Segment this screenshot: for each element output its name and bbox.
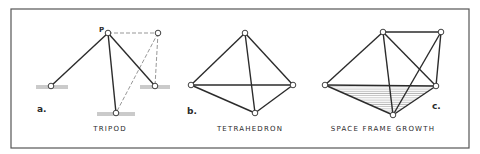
tripod-edges <box>36 33 170 115</box>
strut-member <box>108 33 116 113</box>
panel-a-letter: a. <box>37 104 47 114</box>
joint-node <box>113 110 119 116</box>
dashed-member <box>116 33 158 113</box>
joint-node <box>390 112 396 118</box>
joint-node <box>438 29 444 35</box>
strut-member <box>325 32 383 85</box>
panel-b-caption: TETRAHEDRON <box>216 125 283 133</box>
point-p-label: P <box>99 26 104 34</box>
strut-member <box>108 33 155 86</box>
joint-node <box>433 83 439 89</box>
structural-diagram: P a. TRIPOD b. TETRAHEDRON c. SPACE FRAM… <box>0 0 480 154</box>
figure-canvas: P a. TRIPOD b. TETRAHEDRON c. SPACE FRAM… <box>0 0 480 154</box>
panel-c-caption: SPACE FRAME GROWTH <box>331 125 435 133</box>
strut-member <box>191 33 245 85</box>
space-frame-edges <box>325 32 441 115</box>
panel-c-letter: c. <box>432 101 441 111</box>
joint-node <box>155 30 161 36</box>
panel-c-space-frame-growth: c. SPACE FRAME GROWTH <box>322 29 444 133</box>
joint-node <box>322 82 328 88</box>
strut-member <box>51 33 108 86</box>
joint-node <box>290 82 296 88</box>
joint-node <box>188 82 194 88</box>
strut-member <box>255 85 293 113</box>
panel-a-tripod: P a. TRIPOD <box>36 26 170 133</box>
strut-member <box>245 33 255 113</box>
joint-node <box>380 29 386 35</box>
panel-b-tetrahedron: b. TETRAHEDRON <box>187 30 296 133</box>
strut-member <box>191 85 255 113</box>
dashed-member <box>155 33 158 86</box>
strut-member <box>325 85 436 86</box>
panel-b-letter: b. <box>187 106 197 116</box>
joint-node <box>105 30 111 36</box>
strut-member <box>245 33 293 85</box>
joint-node <box>152 83 158 89</box>
tetrahedron-edges <box>191 33 293 113</box>
panel-a-caption: TRIPOD <box>92 125 127 133</box>
joint-node <box>242 30 248 36</box>
joint-node <box>252 110 258 116</box>
hatched-base-face <box>325 85 436 115</box>
strut-member <box>383 32 436 86</box>
joint-node <box>48 83 54 89</box>
